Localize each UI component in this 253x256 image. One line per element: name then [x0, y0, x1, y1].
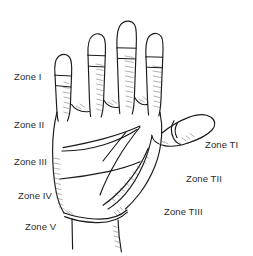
hatch-forearm-2	[114, 231, 119, 233]
hatch-middle-5	[97, 84, 103, 85]
hatch-middle-2	[96, 69, 103, 70]
hatch-ring-5	[125, 76, 133, 78]
little-dip-crease	[146, 67, 162, 68]
zone-label-t1: Zone TI	[205, 139, 238, 150]
hatch-ring-3	[125, 66, 133, 68]
hatch-middle-3	[96, 74, 103, 75]
hatch-ring-4	[125, 71, 133, 72]
palmar-distal-crease	[63, 126, 140, 148]
thumb-ip-crease	[171, 121, 180, 145]
hypothenar-crease	[60, 162, 140, 179]
hatch-middle-6	[97, 89, 103, 91]
palm-ulnar-border	[125, 112, 161, 209]
hatch-thumb-1	[182, 138, 186, 141]
hand-zones-figure: Zone I Zone II Zone III Zone IV Zone V Z…	[0, 0, 253, 256]
middle-pip-crease	[88, 55, 105, 56]
hatch-thumb-5	[164, 141, 168, 143]
thenar-life-line-inner	[103, 132, 126, 161]
hatch-wrist-2	[70, 212, 73, 215]
hatch-index-7	[64, 112, 69, 113]
hatch-hypothenar-3	[53, 168, 60, 169]
hatch-little-3	[153, 76, 161, 78]
hatch-hypothenar-5	[54, 178, 60, 179]
hatch-forearm-5	[115, 246, 120, 248]
zone-label-1: Zone I	[14, 71, 42, 82]
thumb-ip-crease-inner	[175, 123, 177, 137]
hatch-middle-9	[97, 104, 102, 105]
hatch-mcp-2	[80, 104, 85, 107]
hatch-forearm-4	[115, 241, 120, 243]
forearm-radial-edge	[72, 219, 73, 249]
hatch-wrist-5	[120, 207, 123, 210]
hatch-ring-2	[125, 61, 133, 62]
hatch-little-8	[154, 101, 160, 102]
hatch-ring-1	[125, 56, 133, 57]
ring-finger-inner-edge	[117, 48, 120, 114]
hatch-middle-8	[97, 99, 102, 101]
hatch-forearm-1	[113, 226, 118, 228]
hatch-little-6	[154, 91, 161, 92]
hatch-thumb-3	[190, 134, 194, 137]
hatch-index-4	[64, 97, 70, 98]
hatch-ring-6	[126, 81, 133, 82]
hatch-wrist-3	[114, 212, 117, 215]
shading-hatching-group	[53, 56, 194, 248]
middle-dip-crease	[89, 66, 105, 67]
hatch-mcp-5	[139, 99, 144, 102]
hatch-little-2	[153, 71, 161, 72]
hatch-ring-11	[126, 106, 131, 107]
thenar-life-line	[100, 127, 140, 195]
hatch-index-3	[63, 92, 69, 93]
hatch-little-5	[153, 86, 160, 88]
hatch-wrist-4	[117, 210, 120, 213]
palm-radial-border	[53, 112, 64, 213]
hatch-middle-7	[97, 94, 103, 95]
middle-finger-inner-edge	[88, 55, 91, 117]
hand-outline-group	[53, 21, 215, 252]
hatch-ring-9	[126, 96, 132, 98]
hatch-mcp-3	[108, 102, 113, 105]
hatch-hypothenar-1	[54, 158, 60, 159]
zone-label-4: Zone IV	[18, 190, 52, 201]
zone-label-2: Zone II	[14, 119, 44, 130]
hatch-wrist-1	[66, 211, 70, 214]
thenar-crease	[103, 148, 148, 205]
zone-label-t3: Zone TIII	[164, 206, 203, 217]
hatch-middle-4	[96, 79, 103, 81]
index-dip-crease	[56, 86, 71, 87]
little-finger-outline	[146, 33, 163, 116]
hatch-mcp-4	[112, 100, 117, 103]
hatch-little-9	[154, 106, 160, 107]
thumb-outline-lower	[152, 135, 188, 146]
hatch-forearm-3	[114, 236, 119, 238]
hatch-middle-10	[97, 109, 102, 110]
web-index-middle	[72, 105, 90, 112]
hatch-hypothenar-4	[54, 173, 61, 174]
zone-label-3: Zone III	[14, 156, 47, 167]
hatch-middle-1	[96, 64, 103, 65]
web-ring-little	[134, 97, 147, 105]
hatch-index-1	[64, 82, 69, 84]
index-pip-crease	[55, 75, 71, 76]
ring-dip-crease	[117, 58, 135, 59]
hatch-hypothenar-2	[53, 163, 59, 164]
hatch-ring-8	[126, 91, 133, 92]
hatch-little-7	[154, 96, 160, 98]
hatch-thumb-2	[186, 136, 190, 139]
hatch-ring-7	[126, 86, 133, 88]
hatch-index-6	[63, 107, 68, 109]
zone-label-t2: Zone TII	[186, 173, 222, 184]
hatch-ring-10	[126, 101, 132, 102]
hatch-hypothenar-10	[58, 203, 63, 205]
zone-label-5: Zone V	[25, 221, 56, 232]
little-finger-inner-edge	[146, 57, 149, 115]
hatch-little-4	[153, 81, 161, 82]
hatch-index-5	[64, 102, 69, 104]
hatch-mcp-1	[76, 106, 81, 109]
